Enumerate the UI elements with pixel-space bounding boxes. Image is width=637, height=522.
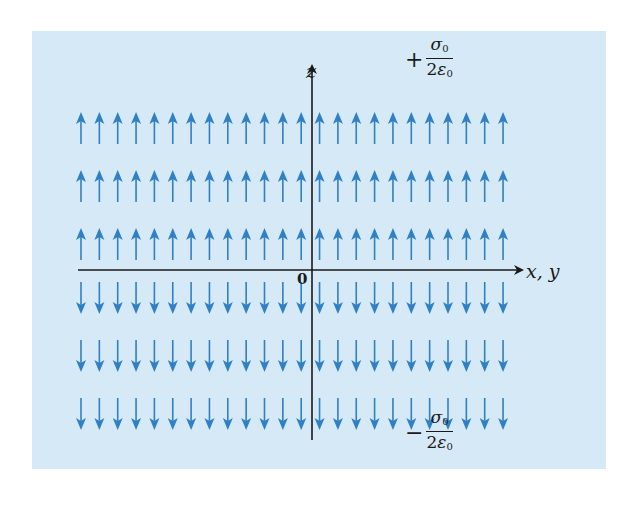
up-arrow — [94, 112, 104, 144]
up-arrow — [204, 170, 214, 202]
up-arrow — [425, 170, 435, 202]
down-arrow — [388, 398, 398, 430]
down-arrow — [480, 282, 490, 314]
down-arrow — [204, 398, 214, 430]
up-arrow — [186, 170, 196, 202]
up-arrow — [278, 112, 288, 144]
field-arrows — [76, 112, 508, 430]
down-arrow — [406, 282, 416, 314]
up-arrow — [406, 170, 416, 202]
down-arrow — [370, 398, 380, 430]
up-arrow — [425, 112, 435, 144]
up-arrow — [113, 228, 123, 260]
down-arrow — [149, 340, 159, 372]
lower-numerator: σ — [431, 407, 443, 427]
up-arrow — [278, 170, 288, 202]
up-arrow — [443, 228, 453, 260]
down-arrow — [425, 340, 435, 372]
down-arrow — [76, 340, 86, 372]
down-arrow — [480, 340, 490, 372]
up-arrow — [223, 112, 233, 144]
down-arrow — [223, 398, 233, 430]
up-arrow — [351, 112, 361, 144]
down-arrow — [388, 340, 398, 372]
down-arrow — [498, 340, 508, 372]
down-arrow — [223, 340, 233, 372]
up-arrow — [351, 170, 361, 202]
up-arrow — [186, 228, 196, 260]
lower-field-label: − σ0 2ε0 — [405, 408, 453, 457]
up-arrow — [370, 228, 380, 260]
down-arrow — [168, 282, 178, 314]
up-arrow — [498, 228, 508, 260]
down-arrow — [94, 340, 104, 372]
up-arrow — [223, 170, 233, 202]
down-arrow — [480, 398, 490, 430]
down-arrow — [94, 282, 104, 314]
down-arrow — [186, 398, 196, 430]
up-arrow — [76, 112, 86, 144]
up-arrow — [76, 228, 86, 260]
down-arrow — [149, 282, 159, 314]
up-arrow — [113, 170, 123, 202]
up-arrow — [168, 112, 178, 144]
up-arrow — [388, 228, 398, 260]
upper-field-label: + σ0 2ε0 — [405, 35, 453, 84]
down-arrow — [333, 340, 343, 372]
down-arrow — [296, 340, 306, 372]
up-arrow — [388, 112, 398, 144]
down-arrow — [204, 282, 214, 314]
up-arrow — [204, 228, 214, 260]
up-arrow — [388, 170, 398, 202]
down-arrow — [204, 340, 214, 372]
up-arrow — [94, 228, 104, 260]
up-arrow — [168, 228, 178, 260]
down-arrow — [370, 282, 380, 314]
up-arrow — [461, 112, 471, 144]
down-arrow — [388, 282, 398, 314]
down-arrow — [498, 398, 508, 430]
z-axis-label: z — [306, 60, 316, 82]
down-arrow — [351, 282, 361, 314]
up-arrow — [204, 112, 214, 144]
down-arrow — [498, 282, 508, 314]
down-arrow — [113, 398, 123, 430]
down-arrow — [241, 282, 251, 314]
down-arrow — [94, 398, 104, 430]
down-arrow — [223, 282, 233, 314]
down-arrow — [131, 398, 141, 430]
down-arrow — [461, 398, 471, 430]
down-arrow — [370, 340, 380, 372]
up-arrow — [443, 170, 453, 202]
down-arrow — [333, 282, 343, 314]
up-arrow — [461, 228, 471, 260]
up-arrow — [131, 170, 141, 202]
upper-numerator: σ — [431, 34, 443, 54]
down-arrow — [443, 282, 453, 314]
down-arrow — [186, 340, 196, 372]
up-arrow — [370, 170, 380, 202]
up-arrow — [315, 112, 325, 144]
up-arrow — [260, 170, 270, 202]
up-arrow — [241, 112, 251, 144]
down-arrow — [131, 282, 141, 314]
down-arrow — [351, 340, 361, 372]
up-arrow — [333, 112, 343, 144]
up-arrow — [315, 228, 325, 260]
up-arrow — [260, 112, 270, 144]
up-arrow — [149, 112, 159, 144]
up-arrow — [186, 112, 196, 144]
down-arrow — [315, 282, 325, 314]
up-arrow — [370, 112, 380, 144]
down-arrow — [76, 282, 86, 314]
origin-label: 0 — [297, 270, 307, 288]
down-arrow — [131, 340, 141, 372]
xy-axis-label: x, y — [526, 260, 560, 282]
up-arrow — [406, 112, 416, 144]
down-arrow — [278, 340, 288, 372]
up-arrow — [260, 228, 270, 260]
up-arrow — [480, 228, 490, 260]
up-arrow — [406, 228, 416, 260]
up-arrow — [296, 170, 306, 202]
up-arrow — [443, 112, 453, 144]
